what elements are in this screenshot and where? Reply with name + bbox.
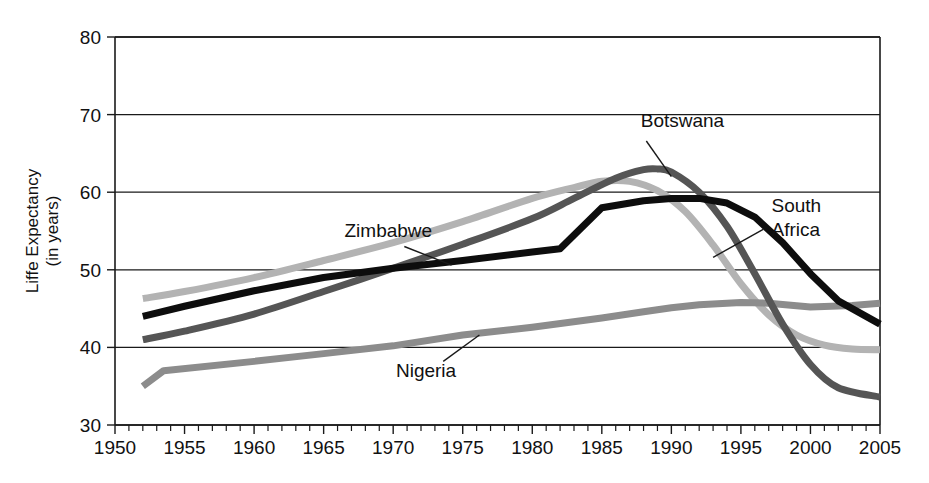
y-tick-label-40: 40 bbox=[80, 337, 101, 358]
series-label-nigeria: Nigeria bbox=[396, 360, 457, 381]
x-tick-label-1995: 1995 bbox=[720, 437, 762, 458]
x-tick-label-2000: 2000 bbox=[789, 437, 831, 458]
y-tick-label-50: 50 bbox=[80, 260, 101, 281]
series-leader-lines bbox=[404, 141, 763, 361]
x-tick-label-1950: 1950 bbox=[94, 437, 136, 458]
chart-figure: 3040506070801950195519601965197019751980… bbox=[0, 0, 929, 483]
x-tick-label-2005: 2005 bbox=[859, 437, 901, 458]
series-label-south-africa-line2: Africa bbox=[772, 219, 821, 240]
y-tick-label-70: 70 bbox=[80, 105, 101, 126]
data-series bbox=[143, 169, 880, 397]
y-axis-title-line1: Liffe Expectancy bbox=[23, 168, 42, 293]
series-line-zimbabwe bbox=[143, 180, 880, 349]
y-tick-label-80: 80 bbox=[80, 27, 101, 48]
x-tick-label-1980: 1980 bbox=[511, 437, 553, 458]
leader-line-south-africa bbox=[713, 229, 763, 257]
series-label-zimbabwe: Zimbabwe bbox=[345, 220, 433, 241]
x-tick-label-1975: 1975 bbox=[442, 437, 484, 458]
y-tick-label-60: 60 bbox=[80, 182, 101, 203]
x-tick-label-1970: 1970 bbox=[372, 437, 414, 458]
series-label-botswana: Botswana bbox=[641, 110, 725, 131]
x-tick-label-1965: 1965 bbox=[302, 437, 344, 458]
x-tick-label-1955: 1955 bbox=[163, 437, 205, 458]
series-label-south-africa-line1: South bbox=[772, 195, 822, 216]
x-tick-label-1985: 1985 bbox=[581, 437, 623, 458]
life-expectancy-line-chart: 3040506070801950195519601965197019751980… bbox=[0, 0, 929, 483]
x-tick-label-1960: 1960 bbox=[233, 437, 275, 458]
x-tick-label-1990: 1990 bbox=[650, 437, 692, 458]
y-axis-title-line2: (in years) bbox=[43, 196, 62, 267]
y-tick-label-30: 30 bbox=[80, 415, 101, 436]
